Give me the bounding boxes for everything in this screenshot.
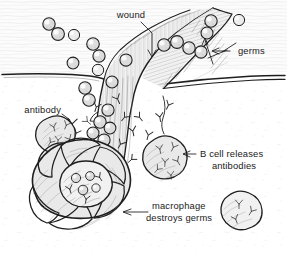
germ (87, 127, 99, 139)
germ-ingested (78, 185, 88, 195)
germ (67, 57, 79, 69)
germ (195, 46, 207, 58)
germ (201, 27, 213, 39)
germ (233, 14, 244, 25)
diagram-canvas: wound germs antibody B cell releases ant… (0, 0, 287, 254)
label-macrophage-line2: destroys germs (146, 212, 212, 223)
germ-ingested (92, 184, 100, 192)
label-bcell-line2: antibodies (212, 160, 256, 171)
germ (83, 94, 96, 107)
germ (205, 15, 217, 27)
germ (43, 18, 55, 30)
label-antibody: antibody (24, 104, 61, 115)
germ (87, 38, 100, 51)
germ (120, 54, 132, 66)
immune-response-figure: wound germs antibody B cell releases ant… (0, 0, 287, 254)
germ (158, 39, 171, 52)
germ (102, 104, 114, 116)
germ (183, 42, 195, 54)
germ (92, 64, 103, 75)
germ (106, 76, 118, 88)
germ-ingested (71, 173, 80, 182)
germ (93, 50, 105, 62)
label-wound: wound (116, 9, 145, 20)
germ (104, 122, 116, 134)
label-macrophage-line1: macrophage (152, 200, 206, 211)
label-bcell-line1: B cell releases (200, 148, 263, 159)
b-cell-right (221, 191, 262, 230)
germ-ingested (86, 172, 95, 181)
germ (68, 29, 79, 40)
germ (171, 36, 184, 49)
label-germs: germs (238, 45, 265, 56)
germ (52, 28, 65, 41)
germ (79, 82, 91, 94)
